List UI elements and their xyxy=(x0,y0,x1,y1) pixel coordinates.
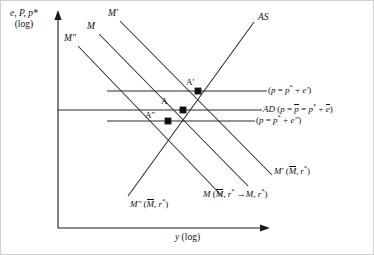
y-axis-arrowhead xyxy=(54,10,61,20)
line-label-ad-middle: AD (p = p = p* + e) xyxy=(263,104,333,114)
figure-border xyxy=(1,1,374,255)
line-label-ad-lower: (p = p* + e″) xyxy=(256,115,301,125)
point-label-a-double-prime: A″ xyxy=(145,110,155,120)
x-axis-label: y (log) xyxy=(175,232,200,243)
x-axis-arrowhead xyxy=(260,224,270,231)
curve-bottom-label-m: M (M, r* →M, r*) xyxy=(203,189,268,199)
curve-label-m: M xyxy=(87,21,95,32)
curve-label-m-double-prime: M″ xyxy=(64,33,76,44)
curve-bottom-label-m-double-prime-visible: M″ (M, r*) xyxy=(130,199,168,209)
curve-label-m-prime: M′ xyxy=(108,8,118,19)
y-axis-label-line2: (log) xyxy=(10,19,38,30)
line-label-ad-upper: (p = p* + e′) xyxy=(268,85,311,95)
y-axis-label-line1: e, P, p* xyxy=(10,8,38,19)
y-axis-label: e, P, p* (log) xyxy=(10,8,38,29)
equilibrium-marker-a xyxy=(180,107,187,114)
equilibrium-marker-a-double-prime xyxy=(165,118,172,125)
equilibrium-marker-a-prime xyxy=(195,88,202,95)
figure-container: e, P, p* (log) y (log) M″ M M′ AS (p = p… xyxy=(0,0,374,255)
point-label-a: A xyxy=(161,96,168,106)
point-label-a-prime: A′ xyxy=(186,77,194,87)
curve-label-as: AS xyxy=(258,12,269,23)
curve-bottom-label-m-prime: M′ (M, r*) xyxy=(274,166,310,176)
diagram-canvas xyxy=(0,0,374,255)
curve-m-prime xyxy=(120,21,272,175)
